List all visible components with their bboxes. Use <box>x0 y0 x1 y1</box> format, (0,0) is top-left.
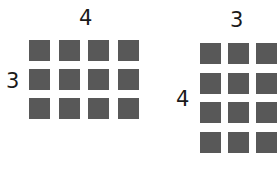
grid-square <box>88 98 109 119</box>
left-array-top-label: 4 <box>79 8 92 29</box>
right-array-side-label: 4 <box>176 89 189 110</box>
grid-square <box>88 40 109 61</box>
grid-square <box>88 69 109 90</box>
grid-square <box>256 73 277 94</box>
grid-square <box>200 43 221 64</box>
grid-square <box>59 69 80 90</box>
grid-square <box>256 102 277 123</box>
grid-square <box>200 102 221 123</box>
grid-square <box>228 132 249 153</box>
right-array-top-label: 3 <box>230 10 243 31</box>
grid-square <box>228 73 249 94</box>
grid-square <box>118 40 139 61</box>
grid-square <box>228 43 249 64</box>
grid-square <box>29 69 50 90</box>
grid-square <box>228 102 249 123</box>
grid-square <box>200 73 221 94</box>
grid-square <box>256 132 277 153</box>
grid-square <box>118 98 139 119</box>
grid-square <box>59 98 80 119</box>
grid-square <box>29 98 50 119</box>
grid-square <box>59 40 80 61</box>
grid-square <box>256 43 277 64</box>
grid-square <box>118 69 139 90</box>
grid-square <box>200 132 221 153</box>
grid-square <box>29 40 50 61</box>
left-array-side-label: 3 <box>6 71 19 92</box>
